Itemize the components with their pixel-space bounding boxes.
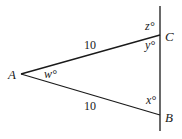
side-label-ac: 10	[84, 38, 96, 52]
point-label-b: B	[165, 110, 173, 125]
angle-label-w: w°	[44, 67, 57, 81]
angle-label-x: x°	[145, 93, 156, 107]
point-label-c: C	[165, 29, 174, 44]
side-label-ab: 10	[84, 99, 96, 113]
angle-label-y: y°	[144, 38, 155, 52]
point-label-a: A	[7, 67, 16, 82]
angle-label-z: z°	[144, 19, 155, 33]
triangle-diagram: A C B 10 10 w° z° y° x°	[0, 0, 182, 139]
